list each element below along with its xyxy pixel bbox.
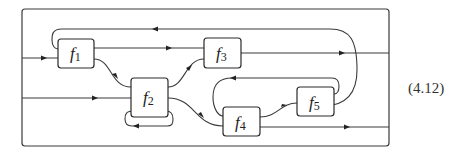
wire-f4-f5 (260, 103, 297, 117)
string-diagram: f1 f2 f3 f4 f5 (0, 0, 462, 150)
wire-f2-f3 (168, 59, 204, 87)
arrow-input-f2 (92, 96, 98, 101)
wire-f1-f2 (94, 59, 131, 87)
arrow-f4-output (344, 125, 350, 130)
arrow-f3-output (339, 51, 345, 56)
wire-f2-f4 (168, 98, 223, 126)
arrow-f2-selfloop (133, 124, 139, 129)
box-f3: f3 (204, 38, 241, 68)
box-f2: f2 (131, 78, 168, 117)
arrow-top-feedback (152, 27, 158, 32)
arrow-f1-f3 (166, 46, 172, 51)
box-f4: f4 (223, 107, 260, 136)
arrow-f5-f4-feedback (230, 76, 236, 81)
arrow-input-f1 (41, 56, 47, 61)
box-f5: f5 (297, 87, 334, 116)
box-f1: f1 (58, 39, 94, 68)
equation-number: (4.12) (408, 80, 444, 97)
